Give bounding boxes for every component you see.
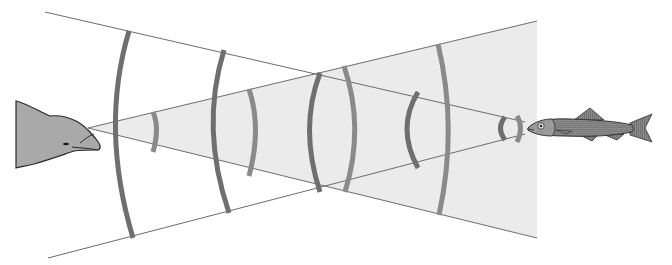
- echolocation-diagram: Dolphin echolocation: [0, 0, 672, 265]
- fish-icon: [528, 108, 652, 142]
- dolphin-head-icon: [16, 101, 100, 168]
